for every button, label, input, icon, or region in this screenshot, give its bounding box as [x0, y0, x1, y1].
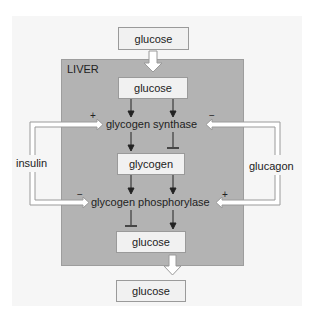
pathway-arrows	[125, 99, 179, 229]
uptake-block-arrow-icon	[144, 51, 162, 72]
insulin-regulation-arrows	[30, 119, 103, 208]
glucagon-regulation-arrows	[206, 119, 280, 208]
release-block-arrow-icon	[164, 255, 181, 275]
arrows-layer	[0, 0, 313, 324]
